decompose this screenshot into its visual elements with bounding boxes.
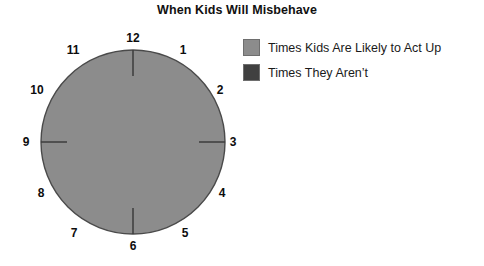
hour-label-7: 7	[71, 227, 78, 239]
legend-item-times-kids-act-up: Times Kids Are Likely to Act Up	[243, 38, 481, 57]
legend-swatch-icon-light	[243, 39, 260, 56]
hour-label-8: 8	[38, 187, 45, 199]
legend-label-0: Times Kids Are Likely to Act Up	[268, 41, 441, 55]
hour-label-5: 5	[182, 227, 189, 239]
chart-legend: Times Kids Are Likely to Act Up Times Th…	[243, 38, 481, 88]
legend-swatch-icon-dark	[243, 64, 260, 81]
pie-slice-times-kids-act-up	[41, 50, 225, 234]
hour-label-1: 1	[180, 44, 187, 56]
legend-item-times-they-arent: Times They Aren’t	[243, 63, 481, 82]
hour-label-4: 4	[219, 187, 226, 199]
clock-face-svg	[0, 24, 240, 266]
hour-label-9: 9	[23, 136, 30, 148]
legend-label-1: Times They Aren’t	[268, 66, 368, 80]
chart-title: When Kids Will Misbehave	[0, 3, 474, 17]
hour-label-6: 6	[130, 240, 137, 252]
hour-label-3: 3	[230, 136, 237, 148]
hour-label-12: 12	[126, 32, 139, 44]
hour-label-10: 10	[30, 84, 43, 96]
hour-label-2: 2	[217, 84, 224, 96]
hour-label-11: 11	[67, 44, 80, 56]
clock-pie-chart: 12 1 2 3 4 5 6 7 8 9 10 11	[0, 24, 240, 266]
